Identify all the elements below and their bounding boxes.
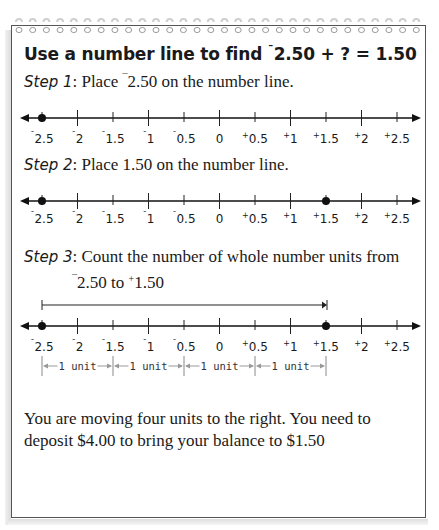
unit-label: 1 unit	[272, 360, 310, 372]
tick-label: ¯2.5	[30, 340, 53, 354]
tick-label: +2	[354, 340, 368, 354]
step-1-text: Step 1: Place ¯2.50 on the number line.	[24, 72, 294, 92]
tick-label: +0.5	[242, 340, 268, 354]
conclusion-text: You are moving four units to the right. …	[24, 408, 424, 452]
tick-label: 0	[216, 132, 224, 146]
negative-sign: ¯	[268, 44, 274, 58]
tick-label: +1	[283, 340, 297, 354]
step-3-text-a: : Count the number of whole number units…	[72, 247, 399, 266]
tick-label: ¯2	[72, 132, 84, 146]
negative-sign: ¯	[72, 273, 77, 284]
tick-label: +1.5	[313, 340, 339, 354]
tick-label: +2.5	[384, 340, 410, 354]
tick-label: ¯0.5	[172, 340, 195, 354]
tick-label: +1.5	[313, 132, 339, 146]
unit-label: 1 unit	[130, 360, 168, 372]
unit-label: 1 unit	[59, 360, 97, 372]
step-3-label: Step 3	[24, 248, 72, 266]
step-2-text: Step 2: Place 1.50 on the number line.	[24, 155, 289, 175]
tick-label: ¯2	[72, 340, 84, 354]
tick-label: ¯2.5	[30, 132, 53, 146]
tick-label: +0.5	[242, 132, 268, 146]
tick-label: ¯2.5	[30, 212, 53, 226]
step-3-text: Step 3: Count the number of whole number…	[24, 247, 399, 267]
step-3-text-c: 1.50	[134, 273, 164, 292]
step-2-text-a: : Place 1.50 on the number line.	[72, 155, 288, 174]
step-1-text-a: : Place	[72, 72, 122, 91]
tick-label: +1	[283, 132, 297, 146]
tick-label: ¯2	[72, 212, 84, 226]
tick-label: ¯1	[143, 212, 155, 226]
page-shadow-bottom	[8, 519, 428, 525]
tick-label: 0	[216, 212, 224, 226]
unit-label: 1 unit	[201, 360, 239, 372]
title-prefix: Use a number line to find	[24, 44, 268, 64]
tick-label: 0	[216, 340, 224, 354]
step-1-label: Step 1	[24, 73, 72, 91]
number-line-3	[0, 312, 439, 362]
tick-label: +2.5	[384, 132, 410, 146]
title-expression: 2.50 + ? = 1.50	[274, 44, 417, 64]
positive-sign: +	[128, 273, 134, 284]
tick-label: ¯1	[143, 132, 155, 146]
tick-label: +2.5	[384, 212, 410, 226]
step-1-text-b: 2.50 on the number line.	[128, 72, 294, 91]
tick-label: +1.5	[313, 212, 339, 226]
spiral-binding	[12, 18, 426, 36]
tick-label: ¯1.5	[101, 340, 124, 354]
tick-label: ¯1.5	[101, 132, 124, 146]
number-line-1	[0, 104, 439, 154]
tick-label: ¯1.5	[101, 212, 124, 226]
tick-label: +2	[354, 132, 368, 146]
tick-label: +2	[354, 212, 368, 226]
tick-label: +1	[283, 212, 297, 226]
unit-intervals: 1 unit1 unit1 unit1 unit	[0, 356, 439, 380]
tick-label: ¯1	[143, 340, 155, 354]
page-title: Use a number line to find ¯2.50 + ? = 1.…	[24, 44, 417, 64]
step-2-label: Step 2	[24, 156, 72, 174]
tick-label: ¯0.5	[172, 132, 195, 146]
step-3-text-b: 2.50 to	[77, 273, 128, 292]
tick-label: +0.5	[242, 212, 268, 226]
tick-label: ¯0.5	[172, 212, 195, 226]
negative-sign: ¯	[123, 72, 128, 83]
step-3-text-line2: ¯2.50 to +1.50	[72, 273, 164, 293]
